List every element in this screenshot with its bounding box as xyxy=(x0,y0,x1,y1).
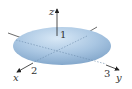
x-axis-label: x xyxy=(13,73,19,83)
z-intercept-label: 1 xyxy=(60,30,66,40)
z-axis-label: z xyxy=(49,7,54,17)
y-intercept-label: 3 xyxy=(104,69,110,79)
y-axis-label: y xyxy=(116,73,122,83)
x-intercept-label: 2 xyxy=(31,66,37,76)
ellipsoid-diagram xyxy=(0,0,132,89)
